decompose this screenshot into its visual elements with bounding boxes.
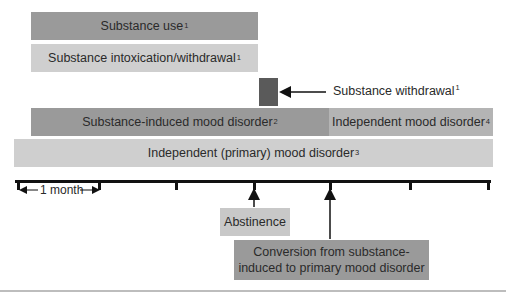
bottom-rule bbox=[0, 290, 506, 292]
conversion-box: Conversion from substance- induced to pr… bbox=[234, 240, 429, 280]
abstinence-box: Abstinence bbox=[220, 208, 290, 236]
